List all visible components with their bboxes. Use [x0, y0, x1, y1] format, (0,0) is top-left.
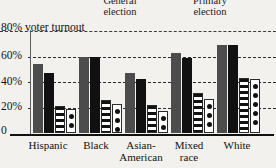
category-label-hispanic-line1: Hispanic	[28, 139, 67, 151]
bar	[250, 79, 260, 133]
bar	[239, 78, 249, 133]
dot-marker	[253, 111, 258, 116]
dot-marker	[115, 109, 120, 114]
bar	[171, 53, 181, 133]
bar	[33, 64, 43, 133]
dot-marker	[69, 123, 74, 128]
category-label-white-line1: White	[224, 139, 251, 151]
bar	[125, 73, 135, 133]
dot-marker	[253, 120, 258, 125]
category-label-asian-american-line1: Asian-	[126, 139, 155, 151]
bar	[90, 57, 100, 134]
bar	[182, 58, 192, 133]
dot-marker	[253, 93, 258, 98]
dot-marker	[207, 122, 212, 127]
bar	[55, 106, 65, 133]
category-label-black-line1: Black	[83, 139, 109, 151]
bar	[101, 100, 111, 133]
bar	[158, 111, 168, 133]
dot-marker	[253, 84, 258, 89]
category-label-white: White	[208, 140, 266, 152]
category-label-mixed-race-line2: race	[160, 152, 218, 164]
bar	[136, 79, 146, 133]
bar	[44, 73, 54, 133]
bar	[204, 99, 214, 133]
dot-marker	[161, 116, 166, 121]
dot-marker	[253, 102, 258, 107]
bar	[147, 105, 157, 133]
dot-marker	[69, 114, 74, 119]
dot-marker	[207, 113, 212, 118]
bar	[217, 45, 227, 133]
dot-marker	[161, 125, 166, 130]
dot-marker	[115, 127, 120, 132]
bar	[112, 104, 122, 133]
dot-marker	[115, 118, 120, 123]
voter-turnout-chart: General election Primary election 80% vo…	[0, 0, 276, 168]
category-label-mixed-race-line1: Mixed	[175, 139, 204, 151]
dot-marker	[207, 104, 212, 109]
bar	[66, 109, 76, 133]
bar	[228, 45, 238, 133]
bar	[193, 93, 203, 133]
bar	[79, 57, 89, 134]
